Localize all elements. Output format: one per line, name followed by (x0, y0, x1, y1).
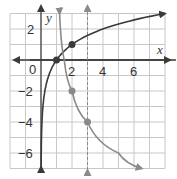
data-point (84, 119, 91, 126)
y-axis-label: y (44, 10, 52, 25)
y-tick-2: 2 (27, 22, 34, 37)
x-tick-4: 4 (99, 64, 106, 79)
data-point (69, 41, 76, 48)
y-tick-neg6: −6 (18, 146, 33, 161)
x-axis-label: x (156, 42, 163, 57)
y-tick-neg4: −4 (18, 115, 33, 130)
x-tick-0: 0 (29, 62, 36, 77)
x-tick-6: 6 (130, 64, 137, 79)
x-tick-2: 2 (68, 64, 75, 79)
data-point (69, 88, 76, 95)
y-tick-neg2: −2 (18, 84, 33, 99)
data-point (53, 57, 60, 64)
graph: y x 0 2 4 6 2 −2 −4 −6 (0, 0, 177, 179)
